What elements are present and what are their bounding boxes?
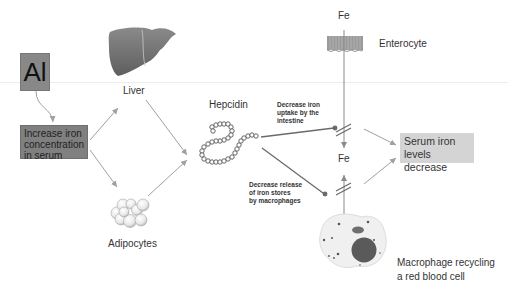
- arrows-to-serum: [364, 129, 396, 184]
- serum-line-1: Serum iron: [404, 135, 470, 148]
- adipocytes-label: Adipocytes: [108, 238, 157, 249]
- uptake-line-2: uptake by the: [277, 109, 320, 117]
- uptake-line-3: intestine: [277, 117, 320, 125]
- release-line-2: of iron stores: [249, 189, 302, 197]
- arrows-iron-to-organs: [90, 108, 118, 187]
- release-line-3: by macrophages: [249, 197, 302, 205]
- liver-label: Liver: [123, 85, 145, 96]
- uptake-line-1: Decrease iron: [277, 101, 320, 109]
- enterocyte-icon: [327, 36, 363, 52]
- release-annotation: Decrease release of iron stores by macro…: [249, 181, 302, 205]
- hepcidin-icon: [200, 122, 258, 164]
- arrows-organs-to-hepcidin: [146, 100, 187, 196]
- fe-top-label: Fe: [338, 10, 350, 21]
- macrophage-icon: [320, 214, 387, 267]
- increase-iron-line-3: in serum: [24, 150, 84, 161]
- increase-iron-line-2: concentration: [24, 139, 84, 150]
- increase-iron-box: Increase iron concentration in serum: [20, 125, 88, 159]
- aluminium-box: Al: [20, 53, 50, 91]
- enterocyte-label: Enterocyte: [379, 38, 427, 49]
- release-line-1: Decrease release: [249, 181, 302, 189]
- hepcidin-label: Hepcidin: [209, 99, 248, 110]
- arrow-al-to-iron: [36, 91, 53, 122]
- uptake-annotation: Decrease iron uptake by the intestine: [277, 101, 320, 125]
- aluminium-label: Al: [23, 57, 46, 87]
- adipocytes-icon: [111, 199, 149, 228]
- serum-iron-box: Serum iron levels decrease: [400, 133, 474, 163]
- serum-line-2: levels decrease: [404, 148, 470, 174]
- macrophage-line-1: Macrophage recycling: [397, 256, 495, 270]
- liver-icon: [109, 28, 176, 76]
- fe-middle-label: Fe: [338, 153, 350, 164]
- macrophage-label: Macrophage recycling a red blood cell: [397, 256, 495, 284]
- macrophage-line-2: a red blood cell: [397, 270, 495, 284]
- increase-iron-line-1: Increase iron: [24, 128, 84, 139]
